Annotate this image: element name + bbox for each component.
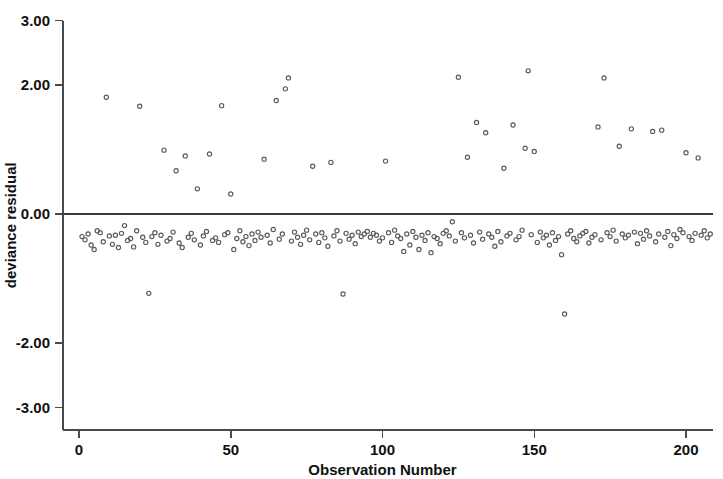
data-point <box>332 234 336 238</box>
data-point <box>368 235 372 239</box>
data-point <box>262 157 266 161</box>
x-tick-label: 50 <box>222 441 239 458</box>
data-point <box>101 240 105 244</box>
data-point <box>247 244 251 248</box>
data-point <box>663 235 667 239</box>
data-point <box>517 234 521 238</box>
data-point <box>156 242 160 246</box>
data-point <box>660 128 664 132</box>
data-point <box>696 156 700 160</box>
data-point <box>298 242 302 246</box>
data-point <box>326 244 330 248</box>
data-point <box>174 169 178 173</box>
data-point <box>417 247 421 251</box>
data-point <box>147 291 151 295</box>
data-point <box>553 238 557 242</box>
data-point <box>547 243 551 247</box>
data-point <box>438 242 442 246</box>
data-point <box>423 238 427 242</box>
data-point <box>365 229 369 233</box>
data-point <box>484 131 488 135</box>
data-point <box>468 233 472 237</box>
data-point <box>611 228 615 232</box>
data-point <box>708 232 712 236</box>
data-point <box>86 232 90 236</box>
x-axis-ticks <box>79 430 686 438</box>
data-point <box>459 231 463 235</box>
data-point <box>308 238 312 242</box>
data-point <box>207 152 211 156</box>
data-point <box>478 230 482 234</box>
data-point <box>666 229 670 233</box>
data-point <box>329 160 333 164</box>
data-point <box>232 247 236 251</box>
x-tick-label: 0 <box>75 441 83 458</box>
data-point <box>286 76 290 80</box>
data-point <box>644 229 648 233</box>
data-point <box>116 245 120 249</box>
data-point <box>393 228 397 232</box>
data-point <box>83 238 87 242</box>
data-point <box>274 98 278 102</box>
data-point <box>502 166 506 170</box>
data-point <box>559 253 563 257</box>
data-point <box>481 237 485 241</box>
data-point <box>141 235 145 239</box>
data-point <box>672 233 676 237</box>
data-point <box>314 232 318 236</box>
data-point <box>532 149 536 153</box>
data-point <box>386 231 390 235</box>
data-point <box>390 240 394 244</box>
data-point <box>138 104 142 108</box>
data-point <box>575 240 579 244</box>
data-point <box>250 232 254 236</box>
data-point <box>180 245 184 249</box>
data-point <box>347 237 351 241</box>
data-point <box>420 233 424 237</box>
data-point <box>235 236 239 240</box>
y-tick-label: 2.00 <box>21 76 50 93</box>
data-point <box>162 148 166 152</box>
data-point <box>456 75 460 79</box>
data-point <box>399 236 403 240</box>
data-point <box>563 312 567 316</box>
data-point <box>195 187 199 191</box>
data-point <box>605 231 609 235</box>
data-point <box>92 247 96 251</box>
x-tick-label: 200 <box>673 441 698 458</box>
data-point <box>292 230 296 234</box>
data-point <box>341 292 345 296</box>
data-point <box>213 236 217 240</box>
y-tick-label: 3.00 <box>21 12 50 29</box>
data-point <box>408 243 412 247</box>
data-point-group <box>80 69 712 316</box>
data-point <box>471 241 475 245</box>
data-point <box>107 234 111 238</box>
data-point <box>657 232 661 236</box>
data-point <box>289 239 293 243</box>
data-point <box>651 129 655 133</box>
data-point <box>192 238 196 242</box>
y-tick-label: -3.00 <box>16 399 50 416</box>
data-point <box>271 227 275 231</box>
data-point <box>150 234 154 238</box>
data-point <box>198 243 202 247</box>
data-point <box>681 231 685 235</box>
data-point <box>526 69 530 73</box>
y-tick-label: -2.00 <box>16 334 50 351</box>
data-point <box>447 234 451 238</box>
data-point <box>110 242 114 246</box>
data-point <box>626 233 630 237</box>
data-point <box>119 231 123 235</box>
data-point <box>450 220 454 224</box>
data-point <box>523 146 527 150</box>
data-point <box>684 151 688 155</box>
data-point <box>493 244 497 248</box>
data-point <box>238 229 242 233</box>
data-point <box>635 242 639 246</box>
data-point <box>204 229 208 233</box>
data-point <box>444 229 448 233</box>
data-point <box>620 232 624 236</box>
data-point <box>693 231 697 235</box>
data-point <box>177 241 181 245</box>
